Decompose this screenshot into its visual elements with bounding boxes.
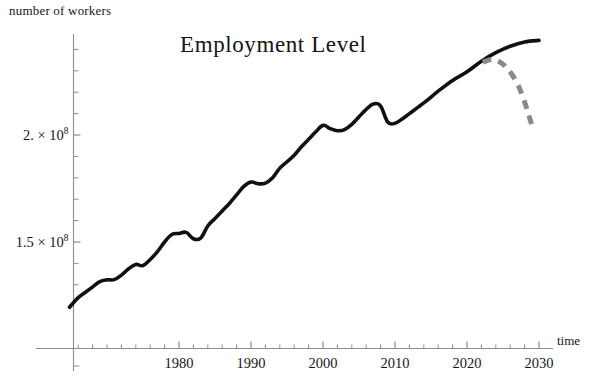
x-tick-label: 2000 bbox=[309, 355, 338, 372]
y-tick-label: 1.5 × 108 bbox=[16, 233, 69, 251]
x-tick-label: 2030 bbox=[525, 355, 554, 372]
x-tick-label: 2020 bbox=[453, 355, 482, 372]
y-tick-label-mantissa: 1.5 × 10 bbox=[16, 234, 64, 250]
x-tick-label: 1990 bbox=[237, 355, 266, 372]
employment-forecast-line bbox=[483, 60, 533, 130]
chart-plot-area bbox=[0, 0, 593, 381]
x-tick-label: 2010 bbox=[381, 355, 410, 372]
y-tick-label-exponent: 8 bbox=[64, 126, 69, 136]
y-tick-label-exponent: 8 bbox=[64, 233, 69, 243]
chart-canvas: number of workers Employment Level time … bbox=[0, 0, 593, 381]
x-tick-label: 1980 bbox=[165, 355, 194, 372]
y-axis-ticks bbox=[74, 49, 81, 284]
employment-history-line bbox=[70, 40, 539, 307]
y-tick-label-mantissa: 2. × 10 bbox=[23, 127, 64, 143]
axes-group bbox=[36, 34, 553, 371]
y-tick-label: 2. × 108 bbox=[23, 126, 69, 144]
